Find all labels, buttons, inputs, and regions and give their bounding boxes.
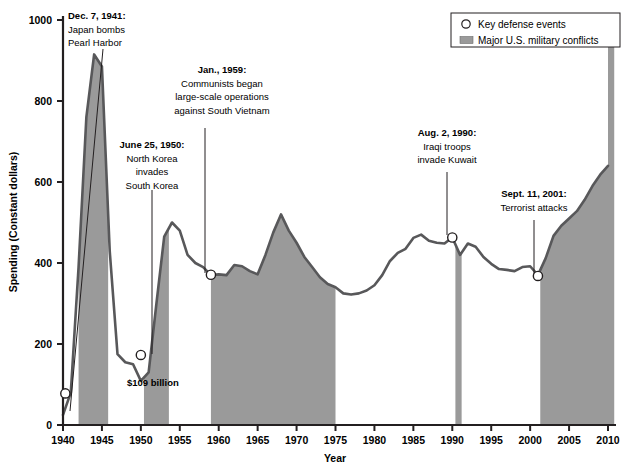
y-tick-label: 800 [34, 95, 52, 107]
event-marker[interactable] [533, 271, 542, 280]
y-tick-label: 400 [34, 257, 52, 269]
x-tick-label: 1985 [402, 434, 426, 446]
legend-item-label: Key defense events [478, 19, 566, 30]
annotation-korea-line: invades [136, 166, 169, 177]
event-marker[interactable] [61, 389, 70, 398]
annotation-pearl-harbor-line: Pearl Harbor [68, 37, 122, 48]
y-tick-label: 1000 [29, 14, 53, 26]
y-axis-title: Spending (Constant dollars) [7, 152, 19, 293]
legend-item-label: Major U.S. military conflicts [478, 35, 599, 46]
x-tick-label: 1940 [51, 434, 75, 446]
annotation-sept11-line: Terrorist attacks [500, 202, 567, 213]
annotation-vietnam-line: Jan., 1959: [198, 64, 247, 75]
defense-spending-chart: 1940194519501955196019651970197519801985… [0, 0, 633, 469]
annotation-korea-line: North Korea [126, 153, 178, 164]
x-tick-label: 1960 [207, 434, 231, 446]
y-tick-label: 600 [34, 176, 52, 188]
x-axis-title: Year [324, 452, 346, 464]
x-tick-label: 1990 [441, 434, 465, 446]
x-tick-label: 1995 [480, 434, 504, 446]
x-tick-label: 1945 [90, 434, 114, 446]
annotation-pearl-harbor-line: Dec. 7, 1941: [68, 10, 126, 21]
y-tick-label: 0 [46, 419, 52, 431]
legend-swatch-icon [460, 37, 473, 44]
event-marker[interactable] [206, 270, 215, 279]
x-tick-label: 1970 [285, 434, 309, 446]
annotation-low-point-line: $109 billion [127, 377, 179, 388]
annotation-kuwait-line: invade Kuwait [417, 154, 477, 165]
annotation-kuwait-line: Iraqi troops [423, 141, 471, 152]
annotation-sept11-line: Sept. 11, 2001: [501, 188, 566, 199]
x-tick-label: 1975 [324, 434, 348, 446]
legend[interactable]: Key defense eventsMajor U.S. military co… [451, 13, 620, 47]
x-tick-label: 2000 [518, 434, 542, 446]
chart-canvas: 1940194519501955196019651970197519801985… [0, 0, 633, 469]
x-tick-label: 1955 [168, 434, 192, 446]
event-marker[interactable] [136, 350, 145, 359]
annotation-kuwait-line: Aug. 2, 1990: [418, 127, 477, 138]
x-tick-label: 1950 [129, 434, 153, 446]
event-marker[interactable] [448, 233, 457, 242]
x-tick-label: 1980 [363, 434, 387, 446]
x-tick-label: 2005 [557, 434, 581, 446]
x-tick-label: 1965 [246, 434, 270, 446]
x-tick-label: 2010 [596, 434, 620, 446]
annotation-korea-line: June 25, 1950: [120, 139, 185, 150]
x-tick-labels: 1940194519501955196019651970197519801985… [51, 434, 620, 446]
annotation-vietnam-line: Communists began [181, 78, 263, 89]
annotation-pearl-harbor-line: Japan bombs [68, 24, 125, 35]
y-tick-label: 200 [34, 338, 52, 350]
annotation-vietnam-line: large-scale operations [175, 91, 269, 102]
annotation-vietnam-line: against South Vietnam [174, 105, 270, 116]
annotation-korea-line: South Korea [126, 180, 180, 191]
legend-circle-icon [462, 20, 470, 28]
